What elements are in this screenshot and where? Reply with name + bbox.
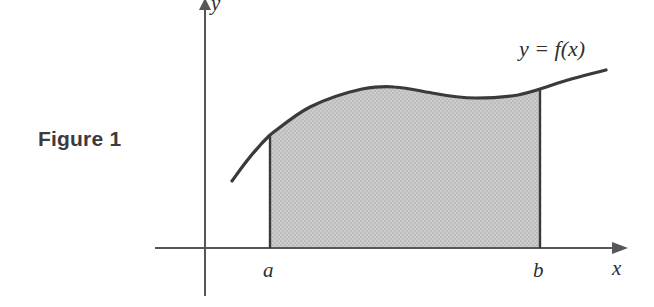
x-axis-arrowhead-icon [612,242,628,254]
plot-area: y = f(x) y x a b [0,0,654,307]
upper-bound-label-b: b [533,258,544,282]
y-axis-arrowhead-icon [199,0,211,10]
shaded-region-under-curve [270,87,540,248]
x-axis-label: x [611,256,622,280]
figure-container: Figure 1 y = f(x) y x a [0,0,654,307]
lower-bound-label-a: a [263,258,274,282]
curve-equation-label: y = f(x) [517,36,585,61]
y-axis-label: y [209,0,221,15]
